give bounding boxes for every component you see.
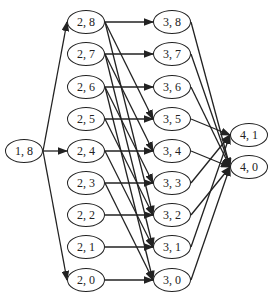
node-2-1: 2, 1 [67, 235, 105, 259]
node-3-3: 3, 3 [153, 171, 191, 195]
edge [191, 167, 230, 280]
node-1-8: 1, 8 [5, 139, 43, 163]
edge [191, 119, 230, 135]
node-2-4: 2, 4 [67, 139, 105, 163]
edge [191, 22, 230, 167]
node-2-6: 2, 6 [67, 75, 105, 99]
node-4-0: 4, 0 [230, 155, 268, 179]
node-2-7: 2, 7 [67, 42, 105, 66]
edge [191, 135, 230, 183]
node-3-1: 3, 1 [153, 235, 191, 259]
edge [43, 151, 67, 280]
node-3-0: 3, 0 [153, 268, 191, 292]
node-4-1: 4, 1 [230, 123, 268, 147]
node-3-7: 3, 7 [153, 42, 191, 66]
dp-graph: 1, 82, 82, 72, 62, 52, 42, 32, 22, 12, 0… [0, 0, 271, 303]
node-2-3: 2, 3 [67, 171, 105, 195]
node-2-2: 2, 2 [67, 203, 105, 227]
edge [105, 22, 153, 119]
node-3-4: 3, 4 [153, 139, 191, 163]
node-3-2: 3, 2 [153, 203, 191, 227]
node-2-5: 2, 5 [67, 107, 105, 131]
node-3-8: 3, 8 [153, 10, 191, 34]
edge [43, 22, 67, 151]
node-2-0: 2, 0 [67, 268, 105, 292]
node-3-6: 3, 6 [153, 75, 191, 99]
node-3-5: 3, 5 [153, 107, 191, 131]
node-2-8: 2, 8 [67, 10, 105, 34]
edge [105, 119, 153, 215]
edge [191, 135, 230, 247]
